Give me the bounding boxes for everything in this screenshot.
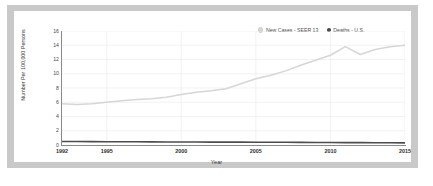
y-axis-title: Number Per 100,000 Persons: [20, 17, 26, 113]
y-tick-label: 2: [56, 128, 59, 133]
x-axis-line: [61, 145, 406, 146]
y-tick-label: 4: [56, 114, 59, 119]
x-axis-title: Year: [0, 159, 433, 165]
y-tick-label: 12: [53, 57, 59, 62]
x-tick-label: 2005: [250, 148, 262, 154]
chart-figure: New Cases - SEER 13 Deaths - U.S. 024681…: [0, 0, 433, 186]
line-series-new-cases: [62, 45, 405, 104]
y-tick-label: 0: [56, 143, 59, 148]
x-tick-label: 2015: [399, 148, 411, 154]
y-tick-label: 10: [53, 71, 59, 76]
x-tick-label: 1992: [56, 148, 68, 154]
plot-area: [62, 31, 405, 145]
y-tick-label: 6: [56, 100, 59, 105]
x-tick-label: 1995: [101, 148, 113, 154]
y-tick-label: 16: [53, 29, 59, 34]
x-tick-label: 2010: [324, 148, 336, 154]
line-series-deaths: [62, 141, 405, 142]
y-tick-label: 8: [56, 86, 59, 91]
y-tick-label: 14: [53, 43, 59, 48]
plot-svg: [62, 31, 405, 145]
x-tick-label: 2000: [175, 148, 187, 154]
horizontal-gridlines: [62, 31, 405, 131]
